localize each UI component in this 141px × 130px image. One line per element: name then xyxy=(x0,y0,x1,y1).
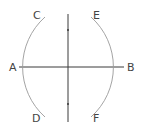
label-e: E xyxy=(93,9,100,22)
label-d: D xyxy=(32,112,40,125)
label-f: F xyxy=(93,112,99,125)
label-c: C xyxy=(33,9,41,22)
label-a: A xyxy=(9,61,17,74)
label-b: B xyxy=(127,61,135,74)
construction-diagram: A B C E D F xyxy=(0,0,141,130)
intersection-top xyxy=(67,29,69,31)
intersection-bottom xyxy=(67,103,69,105)
